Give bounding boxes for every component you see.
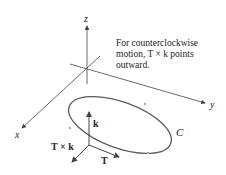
- t-label: T: [101, 155, 108, 166]
- txk-label: T × k: [51, 141, 74, 152]
- annotation-line-2: motion, T × k points: [116, 49, 198, 60]
- curve-label: C: [176, 126, 183, 138]
- txk-vector: [72, 145, 89, 162]
- curve-c: [61, 85, 178, 165]
- k-label: k: [93, 118, 99, 129]
- annotation: For counterclockwise motion, T × k point…: [116, 38, 198, 71]
- diagram-graphics: [0, 0, 226, 175]
- z-axis-label: z: [84, 13, 88, 24]
- annotation-line-1: For counterclockwise: [116, 38, 198, 49]
- x-axis-label: x: [15, 129, 19, 140]
- x-axis: [22, 56, 100, 128]
- diagram: z y x C k T T × k For counterclockwise m…: [0, 0, 226, 175]
- y-axis-label: y: [210, 99, 214, 110]
- annotation-line-3: outward.: [116, 60, 198, 71]
